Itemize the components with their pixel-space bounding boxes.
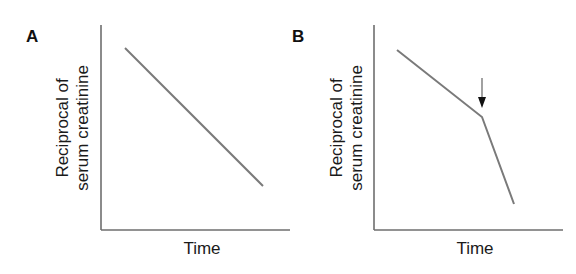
panel-a-x-axis-label: Time <box>183 239 220 258</box>
panel-a-ylabel-line1: Reciprocal of <box>53 78 72 177</box>
panel-a-ylabel-line2: serum creatinine <box>73 65 92 191</box>
panel-a-letter: A <box>26 27 38 46</box>
panel-b-x-axis-label: Time <box>456 239 493 258</box>
panel-b-data-line <box>397 50 514 204</box>
panel-a-data-line <box>125 48 263 186</box>
panel-b-y-axis-label: Reciprocal of serum creatinine <box>327 65 366 191</box>
breakpoint-arrow-icon <box>478 78 486 108</box>
figure: A Reciprocal of serum creatinine Time B … <box>0 0 576 274</box>
panel-a: A Reciprocal of serum creatinine Time <box>26 25 290 258</box>
panel-b-ylabel-line1: Reciprocal of <box>327 78 346 177</box>
panel-b-letter: B <box>292 27 304 46</box>
panel-a-y-axis-label: Reciprocal of serum creatinine <box>53 65 92 191</box>
panel-b-ylabel-line2: serum creatinine <box>347 65 366 191</box>
panel-b: B Reciprocal of serum creatinine Time <box>292 25 563 258</box>
